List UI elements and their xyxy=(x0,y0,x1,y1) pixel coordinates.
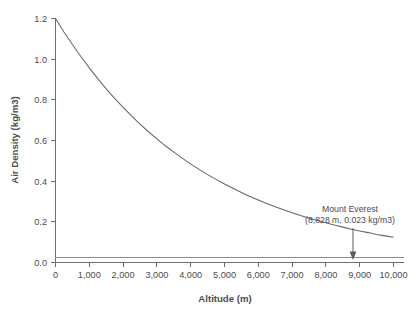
y-tick-label: 0.2 xyxy=(34,217,47,227)
x-axis-title: Altitude (m) xyxy=(198,293,251,304)
y-tick-label: 0.8 xyxy=(34,95,47,105)
x-tick-label: 0 xyxy=(53,270,58,280)
annotation-label-line2: (8,828 m, 0.023 kg/m3) xyxy=(305,215,395,225)
y-axis-tick-labels: 1.2 1.0 0.8 0.6 0.4 0.2 0.0 xyxy=(34,14,47,268)
x-tick-label: 6,000 xyxy=(247,270,270,280)
chart-svg: 1.2 1.0 0.8 0.6 0.4 0.2 0.0 0 1,000 2 xyxy=(0,0,419,318)
y-tick-label: 0.4 xyxy=(34,177,47,187)
x-tick-label: 7,000 xyxy=(281,270,304,280)
y-tick-label: 1.2 xyxy=(34,14,47,24)
y-axis-title: Air Density (kg/m3) xyxy=(9,96,20,183)
x-tick-label: 1,000 xyxy=(78,270,101,280)
x-tick-label: 9,000 xyxy=(348,270,371,280)
x-axis-tick-labels: 0 1,000 2,000 3,000 4,000 5,000 6,000 7,… xyxy=(53,270,408,280)
x-axis-ticks xyxy=(56,263,394,267)
y-tick-label: 0.6 xyxy=(34,136,47,146)
x-tick-label: 3,000 xyxy=(145,270,168,280)
x-tick-label: 2,000 xyxy=(112,270,135,280)
y-tick-label: 0.0 xyxy=(34,258,47,268)
annotation-label-line1: Mount Everest xyxy=(322,204,379,214)
x-tick-label: 5,000 xyxy=(213,270,236,280)
x-tick-label: 4,000 xyxy=(179,270,202,280)
x-tick-label: 10,000 xyxy=(379,270,407,280)
x-tick-label: 8,000 xyxy=(314,270,337,280)
y-tick-label: 1.0 xyxy=(34,55,47,65)
air-density-altitude-chart: 1.2 1.0 0.8 0.6 0.4 0.2 0.0 0 1,000 2 xyxy=(0,0,419,318)
mount-everest-annotation: Mount Everest (8,828 m, 0.023 kg/m3) xyxy=(305,204,395,260)
annotation-arrow-head xyxy=(350,252,357,261)
y-axis-ticks xyxy=(51,19,55,263)
